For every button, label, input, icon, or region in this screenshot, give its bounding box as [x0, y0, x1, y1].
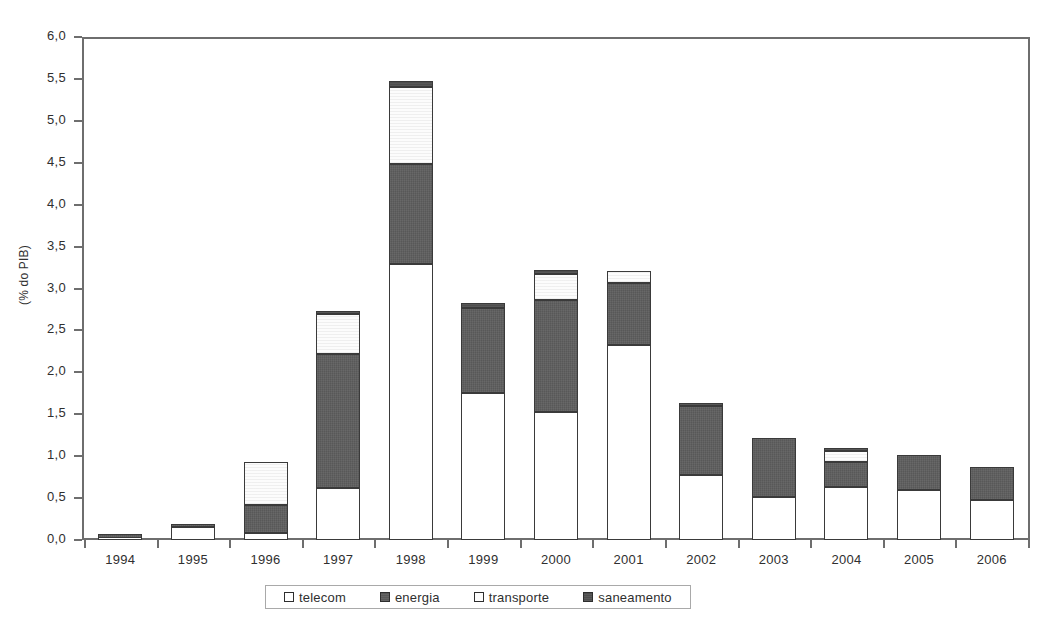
x-axis-tick-mark	[447, 540, 449, 548]
bar-column[interactable]	[389, 39, 433, 540]
x-axis-tick-label: 2006	[977, 552, 1007, 567]
x-axis-tick-mark	[955, 540, 957, 548]
bar-segment-energia[interactable]	[316, 354, 360, 488]
bar-column[interactable]	[607, 39, 651, 540]
y-axis-tick-label: 0,5	[47, 489, 66, 504]
bar-segment-energia[interactable]	[171, 524, 215, 527]
x-axis-tick-label: 2000	[541, 552, 571, 567]
x-axis-tick-label: 1997	[323, 552, 353, 567]
y-axis-tick-mark	[74, 329, 82, 331]
bar-segment-energia[interactable]	[970, 467, 1014, 500]
y-axis: 6,05,55,04,54,03,53,02,52,01,51,00,50,0	[0, 0, 82, 580]
bar-column[interactable]	[461, 39, 505, 540]
legend-item-telecom[interactable]: telecom	[284, 590, 346, 605]
y-axis-tick-mark	[74, 120, 82, 122]
x-axis-tick-label: 1995	[178, 552, 208, 567]
bar-segment-energia[interactable]	[897, 455, 941, 490]
y-axis-tick-mark	[74, 455, 82, 457]
y-axis-tick-label: 2,5	[47, 321, 66, 336]
bar-segment-telecom[interactable]	[389, 264, 433, 540]
y-axis-tick-mark	[74, 78, 82, 80]
x-axis-tick-label: 1994	[105, 552, 135, 567]
bar-stack	[752, 438, 796, 540]
bar-segment-telecom[interactable]	[244, 533, 288, 540]
bar-column[interactable]	[244, 39, 288, 540]
bar-column[interactable]	[970, 39, 1014, 540]
legend-swatch-transporte-icon	[474, 592, 484, 602]
bar-stack	[461, 303, 505, 540]
legend-label: telecom	[299, 590, 346, 605]
bar-stack	[970, 467, 1014, 540]
bar-segment-transporte[interactable]	[316, 314, 360, 354]
y-axis-tick-mark	[74, 288, 82, 290]
bar-stack	[824, 448, 868, 540]
bar-segment-telecom[interactable]	[752, 497, 796, 540]
legend-item-saneamento[interactable]: saneamento	[583, 590, 672, 605]
bar-segment-energia[interactable]	[824, 462, 868, 486]
bar-segment-energia[interactable]	[534, 300, 578, 413]
bar-column[interactable]	[171, 39, 215, 540]
bar-segment-energia[interactable]	[389, 164, 433, 264]
bar-segment-telecom[interactable]	[316, 488, 360, 540]
y-axis-tick-label: 4,5	[47, 154, 66, 169]
bar-segment-telecom[interactable]	[679, 475, 723, 540]
bar-segment-transporte[interactable]	[824, 451, 868, 463]
x-axis-tick-label: 2003	[759, 552, 789, 567]
bar-segment-saneamento[interactable]	[679, 403, 723, 406]
bar-column[interactable]	[679, 39, 723, 540]
bar-segment-energia[interactable]	[607, 283, 651, 345]
y-axis-tick-label: 1,5	[47, 405, 66, 420]
bar-segment-energia[interactable]	[461, 308, 505, 393]
bar-segment-energia[interactable]	[752, 438, 796, 496]
bar-segment-telecom[interactable]	[461, 393, 505, 540]
bar-segment-telecom[interactable]	[897, 490, 941, 540]
y-axis-tick-label: 3,0	[47, 280, 66, 295]
bar-segment-saneamento[interactable]	[316, 311, 360, 314]
bar-segment-telecom[interactable]	[534, 412, 578, 540]
legend-label: energia	[395, 590, 440, 605]
bar-segment-transporte[interactable]	[607, 271, 651, 283]
bar-column[interactable]	[534, 39, 578, 540]
bar-segment-transporte[interactable]	[534, 274, 578, 299]
bar-column[interactable]	[316, 39, 360, 540]
y-axis-tick-mark	[74, 539, 82, 541]
x-axis-tick-label: 1998	[396, 552, 426, 567]
bar-segment-saneamento[interactable]	[534, 270, 578, 274]
x-axis-tick-mark	[592, 540, 594, 548]
bar-stack	[316, 311, 360, 540]
y-axis-tick-mark	[74, 497, 82, 499]
bar-segment-transporte[interactable]	[244, 462, 288, 505]
bar-column[interactable]	[752, 39, 796, 540]
legend-swatch-telecom-icon	[284, 592, 294, 602]
bar-segment-telecom[interactable]	[607, 345, 651, 540]
bar-segment-saneamento[interactable]	[389, 81, 433, 87]
y-axis-tick-label: 6,0	[47, 28, 66, 43]
x-axis: 1994199519961997199819992000200120022003…	[82, 540, 1030, 580]
x-axis-tick-mark	[665, 540, 667, 548]
legend-label: saneamento	[598, 590, 672, 605]
legend-swatch-saneamento-icon	[583, 592, 593, 602]
chart-legend: telecomenergiatransportesaneamento	[265, 585, 691, 609]
bar-segment-telecom[interactable]	[970, 500, 1014, 540]
bar-column[interactable]	[897, 39, 941, 540]
x-axis-tick-label: 2001	[614, 552, 644, 567]
bar-segment-energia[interactable]	[244, 505, 288, 533]
bar-segment-energia[interactable]	[679, 406, 723, 475]
y-axis-tick-mark	[74, 36, 82, 38]
bar-column[interactable]	[98, 39, 142, 540]
bar-stack	[171, 525, 215, 540]
bars-layer	[84, 39, 1028, 540]
x-axis-tick-mark	[810, 540, 812, 548]
y-axis-tick-mark	[74, 204, 82, 206]
legend-item-energia[interactable]: energia	[380, 590, 440, 605]
bar-segment-saneamento[interactable]	[824, 448, 868, 451]
bar-segment-telecom[interactable]	[824, 487, 868, 540]
x-axis-tick-mark	[883, 540, 885, 548]
x-axis-tick-label: 2005	[904, 552, 934, 567]
bar-segment-telecom[interactable]	[171, 527, 215, 540]
legend-item-transporte[interactable]: transporte	[474, 590, 550, 605]
bar-column[interactable]	[824, 39, 868, 540]
bar-segment-saneamento[interactable]	[461, 303, 505, 308]
bar-segment-energia[interactable]	[98, 534, 142, 537]
bar-segment-transporte[interactable]	[389, 87, 433, 165]
